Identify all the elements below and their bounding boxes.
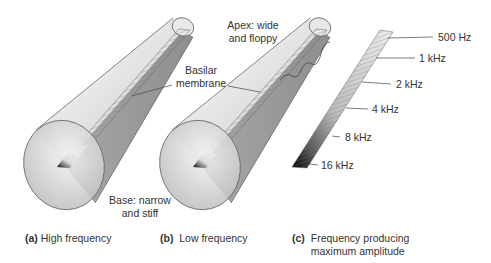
caption-a-letter: (a) [25, 232, 38, 244]
base-label-line1: Base: narrow [105, 194, 175, 207]
freq-label-4khz: 4 kHz [372, 103, 399, 116]
apex-label-line2: and floppy [213, 32, 293, 45]
freq-label-8khz: 8 kHz [345, 131, 372, 144]
base-label: Base: narrow and stiff [105, 194, 175, 220]
basilar-label-line2: membrane [170, 77, 232, 90]
freq-label-1khz: 1 kHz [419, 52, 446, 65]
freq-label-500hz: 500 Hz [438, 31, 471, 44]
caption-b: (b) Low frequency [160, 232, 248, 245]
caption-c-line2: maximum amplitude [311, 245, 410, 258]
base-label-line2: and stiff [105, 207, 175, 220]
apex-label-line1: Apex: wide [213, 19, 293, 32]
freq-label-16khz: 16 kHz [321, 159, 354, 172]
caption-c-letter: (c) [292, 232, 305, 244]
apex-label: Apex: wide and floppy [213, 19, 293, 45]
caption-b-letter: (b) [160, 232, 173, 244]
basilar-membrane-label: Basilar membrane [170, 64, 232, 90]
caption-b-text: Low frequency [179, 232, 247, 244]
caption-a-text: High frequency [41, 232, 112, 244]
caption-c: (c) Frequency producing maximum amplitud… [292, 232, 409, 258]
caption-a: (a) High frequency [25, 232, 111, 245]
caption-c-line1: Frequency producing [311, 232, 410, 245]
freq-label-2khz: 2 kHz [396, 78, 423, 91]
basilar-label-line1: Basilar [170, 64, 232, 77]
